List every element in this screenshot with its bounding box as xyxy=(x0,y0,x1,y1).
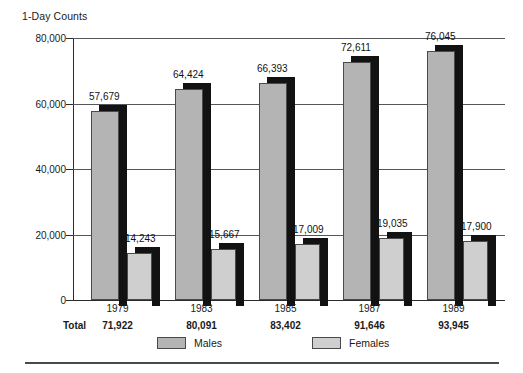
bar-front-face xyxy=(427,51,455,300)
x-axis-category-label: 1987 xyxy=(358,303,380,314)
total-value: 93,945 xyxy=(438,320,469,331)
legend-swatch-females xyxy=(312,337,341,349)
bar-side-face xyxy=(152,253,160,306)
x-axis-category-label: 1985 xyxy=(274,303,296,314)
bar-value-label: 66,393 xyxy=(257,63,288,74)
bar-males-1979[interactable] xyxy=(91,111,119,300)
y-axis-tick-label: 80,000 xyxy=(35,33,66,44)
y-axis-labels: 020,00040,00060,00080,000 xyxy=(16,38,66,300)
bar-females-1989[interactable] xyxy=(463,241,488,300)
bar-females-1987[interactable] xyxy=(379,238,404,300)
bar-males-1989[interactable] xyxy=(427,51,455,300)
bar-front-face xyxy=(175,89,203,300)
bar-value-label: 72,611 xyxy=(341,42,371,53)
bar-females-1983[interactable] xyxy=(211,249,236,300)
y-axis-tick-label: 40,000 xyxy=(35,164,66,175)
x-axis-labels: 19791983198519871989 xyxy=(73,303,505,319)
bar-group: 76,04517,900 xyxy=(427,38,496,300)
bar-side-face xyxy=(404,238,412,306)
bar-front-face xyxy=(91,111,119,300)
bar-front-face xyxy=(343,62,371,300)
x-axis-category-label: 1983 xyxy=(190,303,212,314)
x-axis-category-label: 1989 xyxy=(442,303,464,314)
bar-group: 64,42415,667 xyxy=(175,38,244,300)
bar-side-face xyxy=(371,62,379,306)
bar-front-face xyxy=(379,238,404,300)
legend-item-males[interactable]: Males xyxy=(157,337,222,349)
total-value: 71,922 xyxy=(102,320,133,331)
bar-males-1983[interactable] xyxy=(175,89,203,300)
bar-females-1985[interactable] xyxy=(295,244,320,300)
bar-side-face xyxy=(203,89,211,306)
bar-value-label: 17,900 xyxy=(461,221,492,232)
chart-title: 1-Day Counts xyxy=(22,10,87,22)
y-axis-tick-label: 60,000 xyxy=(35,98,66,109)
bar-front-face xyxy=(295,244,320,300)
bottom-divider xyxy=(25,362,499,364)
y-axis-tick xyxy=(66,300,73,301)
legend-label: Females xyxy=(349,337,389,349)
bar-front-face xyxy=(211,249,236,300)
bar-side-face xyxy=(455,51,463,306)
total-value: 91,646 xyxy=(354,320,385,331)
totals-row: Total 71,92280,09183,40291,64693,945 xyxy=(0,320,523,336)
bar-value-label: 76,045 xyxy=(425,31,456,42)
bar-front-face xyxy=(127,253,152,300)
bar-females-1979[interactable] xyxy=(127,253,152,300)
bar-group: 66,39317,009 xyxy=(259,38,328,300)
bar-males-1985[interactable] xyxy=(259,83,287,300)
y-axis-tick xyxy=(66,235,73,236)
totals-caption: Total xyxy=(63,320,86,331)
bar-value-label: 64,424 xyxy=(173,69,204,80)
bar-value-label: 57,679 xyxy=(89,91,120,102)
bar-males-1987[interactable] xyxy=(343,62,371,300)
bar-value-label: 14,243 xyxy=(125,233,156,244)
y-axis-tick xyxy=(66,104,73,105)
x-axis-category-label: 1979 xyxy=(106,303,128,314)
legend-item-females[interactable]: Females xyxy=(312,337,389,349)
bar-group: 72,61119,035 xyxy=(343,38,412,300)
bar-side-face xyxy=(320,244,328,306)
chart-legend: MalesFemales xyxy=(0,337,523,355)
bar-value-label: 17,009 xyxy=(293,224,324,235)
plot-area: 57,67914,24364,42415,66766,39317,00972,6… xyxy=(73,38,505,300)
y-axis-tick xyxy=(66,169,73,170)
y-axis-tick-label: 20,000 xyxy=(35,229,66,240)
bar-front-face xyxy=(259,83,287,300)
bar-side-face xyxy=(236,249,244,306)
legend-label: Males xyxy=(194,337,222,349)
bar-side-face xyxy=(488,241,496,306)
bar-front-face xyxy=(463,241,488,300)
total-value: 80,091 xyxy=(186,320,217,331)
bar-group: 57,67914,243 xyxy=(91,38,160,300)
bar-value-label: 19,035 xyxy=(377,218,408,229)
chart-figure: 1-Day Counts 020,00040,00060,00080,000 5… xyxy=(0,0,523,373)
bar-value-label: 15,667 xyxy=(209,229,240,240)
bar-side-face xyxy=(287,83,295,306)
y-axis-tick xyxy=(66,38,73,39)
total-value: 83,402 xyxy=(270,320,301,331)
bar-side-face xyxy=(119,111,127,306)
legend-swatch-males xyxy=(157,337,186,349)
